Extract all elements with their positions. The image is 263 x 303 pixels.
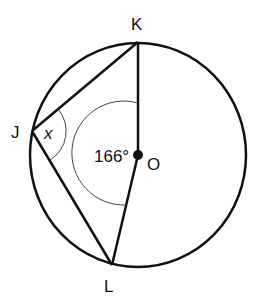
chord-jk [32, 42, 138, 131]
center-point [133, 150, 143, 160]
geometry-diagram: K J L O 166° x [0, 0, 263, 303]
label-o: O [147, 155, 160, 174]
inscribed-angle-label: x [43, 124, 53, 143]
label-j: J [11, 123, 20, 142]
label-k: K [131, 15, 143, 34]
radius-ol [112, 155, 138, 265]
label-l: L [104, 277, 113, 296]
central-angle-label: 166° [94, 147, 129, 166]
